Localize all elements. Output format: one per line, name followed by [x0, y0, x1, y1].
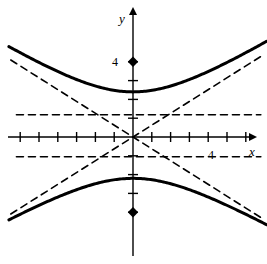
hyperbola-lower-branch [9, 178, 267, 224]
y-tick-label-4: 4 [112, 56, 118, 68]
focus-upper [128, 57, 138, 67]
axes-group [8, 14, 250, 256]
y-axis-label: y [119, 12, 125, 25]
asymptote-positive-slope [11, 55, 263, 214]
hyperbola-plot [0, 0, 267, 264]
hyperbola-figure: y x 4 4 [0, 0, 267, 264]
x-axis-label: x [249, 145, 255, 158]
x-tick-label-4: 4 [208, 149, 214, 161]
hyperbola-upper-branch [9, 41, 267, 91]
asymptote-negative-slope [11, 60, 263, 219]
focus-lower [128, 207, 138, 217]
curves-group [9, 41, 267, 224]
